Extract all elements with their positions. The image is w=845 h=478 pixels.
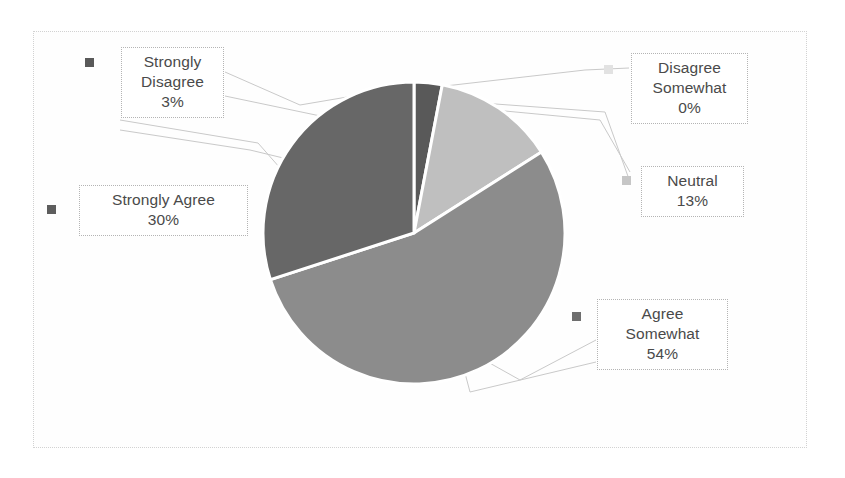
legend-marker-agree-somewhat	[572, 312, 581, 321]
legend-marker-neutral	[622, 176, 631, 185]
leader-line	[120, 120, 280, 168]
data-label-disagree-somewhat[interactable]: Disagree Somewhat 0%	[631, 53, 748, 124]
data-label-percent: 0%	[639, 98, 740, 118]
chart-screenshot: Strongly Disagree 3% Disagree Somewhat 0…	[0, 0, 845, 478]
data-label-percent: 13%	[649, 191, 736, 211]
legend-marker-disagree-somewhat	[604, 65, 613, 74]
data-label-percent: 3%	[129, 92, 216, 112]
pie-slice-group	[263, 82, 565, 384]
legend-marker-strongly-agree	[47, 205, 56, 214]
data-label-neutral[interactable]: Neutral 13%	[641, 166, 744, 217]
data-label-text-line1: Strongly	[129, 52, 216, 72]
leader-line	[443, 68, 630, 86]
data-label-text-line1: Strongly Agree	[87, 190, 240, 210]
legend-marker-strongly-disagree	[85, 58, 94, 67]
data-label-text-line2: Somewhat	[639, 78, 740, 98]
data-label-text-line2: Somewhat	[605, 324, 720, 344]
data-label-strongly-agree[interactable]: Strongly Agree 30%	[79, 185, 248, 236]
leader-line	[120, 130, 285, 158]
data-label-percent: 54%	[605, 344, 720, 364]
data-label-text-line2: Disagree	[129, 72, 216, 92]
data-label-text-line1: Agree	[605, 304, 720, 324]
data-label-text-line1: Disagree	[639, 58, 740, 78]
data-label-text-line1: Neutral	[649, 171, 736, 191]
data-label-percent: 30%	[87, 210, 240, 230]
data-label-agree-somewhat[interactable]: Agree Somewhat 54%	[597, 299, 728, 370]
data-label-strongly-disagree[interactable]: Strongly Disagree 3%	[121, 47, 224, 118]
